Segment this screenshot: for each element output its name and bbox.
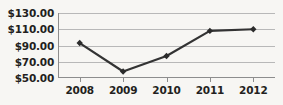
y-axis-tick-label: $50.00 xyxy=(15,72,54,84)
plot-area xyxy=(58,13,275,78)
x-axis-tick xyxy=(253,78,254,82)
x-axis-tick xyxy=(210,78,211,82)
y-axis-tick-label: $130.00 xyxy=(8,7,54,19)
x-axis-tick xyxy=(123,78,124,82)
line-chart: $50.00$70.00$90.00$110.00$130.00 2008200… xyxy=(0,0,283,105)
data-point-marker xyxy=(250,26,256,32)
data-series-line xyxy=(58,13,275,78)
x-axis-tick-label: 2009 xyxy=(109,84,137,96)
y-axis-tick-label: $110.00 xyxy=(8,23,54,35)
y-axis-tick-label: $70.00 xyxy=(15,56,54,68)
x-axis-tick xyxy=(167,78,168,82)
x-axis-tick-label: 2008 xyxy=(65,84,93,96)
y-axis-tick-labels: $50.00$70.00$90.00$110.00$130.00 xyxy=(0,0,58,105)
x-axis-tick xyxy=(80,78,81,82)
x-axis-tick-labels: 20082009201020112012 xyxy=(58,84,275,102)
x-axis-tick-label: 2011 xyxy=(196,84,224,96)
series-line xyxy=(80,29,254,71)
x-axis-tick-label: 2012 xyxy=(239,84,267,96)
x-axis-tick-label: 2010 xyxy=(152,84,180,96)
y-axis-tick-label: $90.00 xyxy=(15,40,54,52)
